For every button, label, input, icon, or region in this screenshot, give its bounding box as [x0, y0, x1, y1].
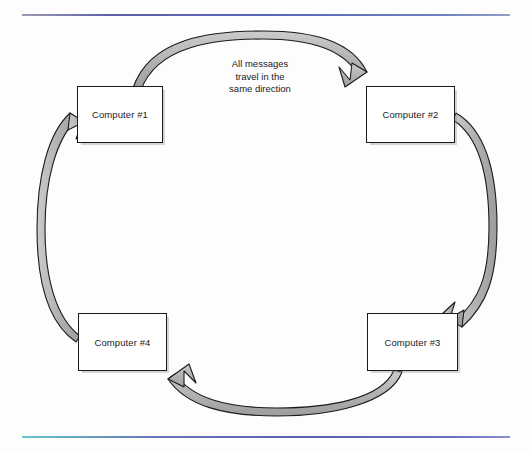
node-label: Computer #1: [92, 109, 148, 120]
annotation-line-2: travel in the: [185, 71, 335, 84]
bottom-divider-rule: [22, 436, 510, 438]
arrow-computer3-to-computer4: [168, 364, 402, 416]
node-label: Computer #4: [94, 337, 150, 348]
node-computer-3[interactable]: Computer #3: [367, 313, 458, 371]
node-computer-4[interactable]: Computer #4: [78, 313, 167, 371]
direction-annotation: All messages travel in the same directio…: [185, 58, 335, 96]
arrow-computer4-to-computer1: [37, 113, 91, 342]
node-label: Computer #3: [384, 337, 440, 348]
arrow-computer2-to-computer3: [441, 113, 497, 327]
node-computer-2[interactable]: Computer #2: [366, 86, 455, 143]
node-label: Computer #2: [382, 109, 438, 120]
annotation-line-3: same direction: [185, 83, 335, 96]
node-computer-1[interactable]: Computer #1: [77, 86, 163, 143]
annotation-line-1: All messages: [185, 58, 335, 71]
diagram-canvas: Computer #1 Computer #2 Computer #3 Comp…: [0, 0, 530, 452]
